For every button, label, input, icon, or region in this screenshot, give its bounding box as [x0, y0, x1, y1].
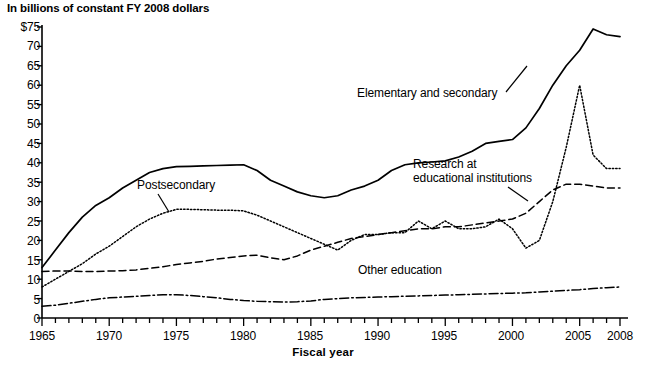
series-line-other-education	[42, 287, 620, 306]
chart-container: In billions of constant FY 2008 dollars …	[0, 0, 646, 368]
leader-elementary-secondary	[506, 66, 527, 92]
leader-research	[508, 187, 528, 201]
annotation-leader-lines	[158, 66, 528, 212]
axes	[37, 25, 628, 326]
series-lines	[42, 29, 620, 306]
plot-area	[0, 0, 646, 368]
series-line-postsecondary	[42, 85, 620, 287]
leader-postsecondary	[158, 194, 169, 212]
